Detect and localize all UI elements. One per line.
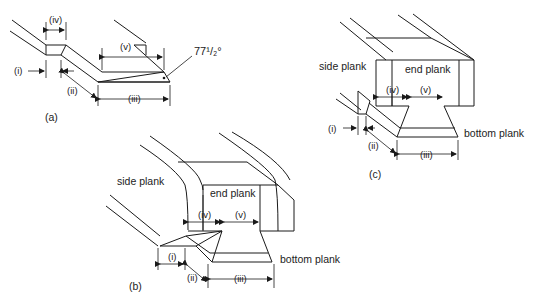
panel-a-angle-label: 77¹/₂° [194, 46, 222, 57]
panel-c-dim-iv: (iv) [386, 85, 399, 95]
panel-a-drawing [10, 20, 192, 106]
panel-b-end-plank-label: end plank [210, 188, 256, 199]
panel-a-dim-iii: (iii) [128, 94, 141, 104]
panel-b-dim-iii: (iii) [234, 274, 247, 284]
panel-c-dim-ii: (ii) [368, 141, 379, 151]
panel-c-end-plank-label: end plank [405, 64, 451, 75]
diagram-artwork [0, 0, 536, 301]
panel-c-caption: (c) [369, 169, 381, 180]
panel-a-dim-iv: (iv) [49, 15, 62, 25]
panel-c-dim-iii: (iii) [420, 150, 433, 160]
panel-a-caption: (a) [45, 112, 58, 123]
panel-b-dim-v: (v) [235, 210, 246, 220]
panel-a-dim-v: (v) [120, 42, 131, 52]
panel-b-dim-iv: (iv) [198, 210, 211, 220]
panel-a-dim-i: (i) [14, 66, 22, 76]
panel-b-bottom-plank-label: bottom plank [280, 254, 340, 265]
panel-c-bottom-plank-label: bottom plank [464, 128, 524, 139]
panel-b-dim-i: (i) [168, 252, 176, 262]
panel-c-dim-v: (v) [420, 85, 431, 95]
panel-c-side-plank-label: side plank [319, 61, 366, 72]
panel-a-dim-ii: (ii) [67, 86, 78, 96]
panel-c-dim-i: (i) [328, 124, 336, 134]
panel-b-dim-ii: (ii) [187, 273, 198, 283]
panel-b-side-plank-label: side plank [117, 176, 164, 187]
panel-b-caption: (b) [129, 281, 142, 292]
panel-c-drawing [336, 14, 474, 160]
